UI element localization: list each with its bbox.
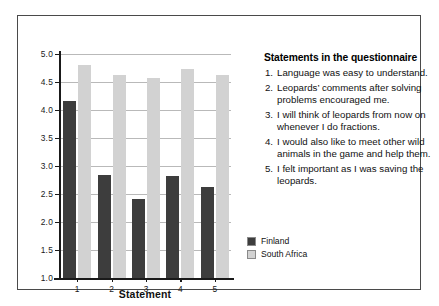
bar-finland-5 xyxy=(201,187,214,278)
statement-number: 4. xyxy=(264,136,277,159)
statement-text: I felt important as I was saving the leo… xyxy=(277,163,436,186)
y-tick-mark xyxy=(55,82,59,83)
y-tick-mark xyxy=(55,222,59,223)
y-tick-mark xyxy=(55,194,59,195)
x-tick-mark xyxy=(180,278,181,282)
statements-list: 1.Language was easy to understand.2.Leop… xyxy=(264,67,436,187)
y-tick-mark xyxy=(55,138,59,139)
statement-number: 3. xyxy=(264,109,277,132)
x-tick-mark xyxy=(146,278,147,282)
bar-south-africa-4 xyxy=(181,69,194,278)
legend-swatch-icon xyxy=(247,250,256,259)
statements-panel: Statements in the questionnaire 1.Langua… xyxy=(264,52,436,190)
statement-item: 3.I will think of leopards from now on w… xyxy=(264,109,436,132)
y-tick-label: 4.5 xyxy=(41,77,53,87)
y-tick-mark xyxy=(55,250,59,251)
bar-south-africa-3 xyxy=(147,78,160,278)
bar-group xyxy=(98,54,126,278)
bar-south-africa-2 xyxy=(113,75,126,278)
statement-item: 2.Leopards’ comments after solving probl… xyxy=(264,82,436,105)
statement-number: 2. xyxy=(264,82,277,105)
bar-group xyxy=(132,54,160,278)
y-tick-label: 1.5 xyxy=(41,245,53,255)
statement-text: Leopards’ comments after solving problem… xyxy=(277,82,436,105)
bar-group xyxy=(63,54,91,278)
statement-text: I will think of leopards from now on whe… xyxy=(277,109,436,132)
x-tick-mark xyxy=(112,278,113,282)
statement-item: 5.I felt important as I was saving the l… xyxy=(264,163,436,186)
statement-number: 1. xyxy=(264,67,277,79)
y-axis-line xyxy=(59,51,61,280)
figure: 1.01.52.02.53.03.54.04.55.012345 Stateme… xyxy=(0,0,439,306)
chart-legend: FinlandSouth Africa xyxy=(247,236,307,262)
statement-text: Language was easy to understand. xyxy=(277,67,436,79)
y-tick-label: 1.0 xyxy=(41,273,53,283)
y-tick-label: 2.5 xyxy=(41,189,53,199)
statement-text: I would also like to meet other wild ani… xyxy=(277,136,436,159)
statements-heading: Statements in the questionnaire xyxy=(264,52,436,63)
x-tick-mark xyxy=(77,278,78,282)
y-tick-mark xyxy=(55,166,59,167)
y-tick-mark xyxy=(55,278,59,279)
bar-finland-3 xyxy=(132,199,145,278)
legend-label: South Africa xyxy=(261,249,307,259)
bar-finland-4 xyxy=(166,176,179,278)
y-tick-label: 3.5 xyxy=(41,133,53,143)
y-tick-mark xyxy=(55,54,59,55)
plot-area: 1.01.52.02.53.03.54.04.55.012345 xyxy=(59,54,231,278)
bar-south-africa-5 xyxy=(216,75,229,278)
statement-item: 4.I would also like to meet other wild a… xyxy=(264,136,436,159)
bar-finland-2 xyxy=(98,175,111,278)
bar-finland-1 xyxy=(63,101,76,278)
legend-item-south-africa: South Africa xyxy=(247,249,307,259)
bar-group xyxy=(166,54,194,278)
bar-group xyxy=(201,54,229,278)
statement-item: 1.Language was easy to understand. xyxy=(264,67,436,79)
figure-frame: 1.01.52.02.53.03.54.04.55.012345 Stateme… xyxy=(17,15,421,290)
y-tick-label: 5.0 xyxy=(41,49,53,59)
statement-number: 5. xyxy=(264,163,277,186)
x-axis-title: Statement xyxy=(59,288,231,300)
x-axis-line xyxy=(54,278,234,280)
legend-item-finland: Finland xyxy=(247,236,307,246)
bar-south-africa-1 xyxy=(78,65,91,278)
y-tick-label: 2.0 xyxy=(41,217,53,227)
legend-swatch-icon xyxy=(247,237,256,246)
y-tick-label: 3.0 xyxy=(41,161,53,171)
y-tick-label: 4.0 xyxy=(41,105,53,115)
x-tick-mark xyxy=(215,278,216,282)
legend-label: Finland xyxy=(261,236,289,246)
y-tick-mark xyxy=(55,110,59,111)
